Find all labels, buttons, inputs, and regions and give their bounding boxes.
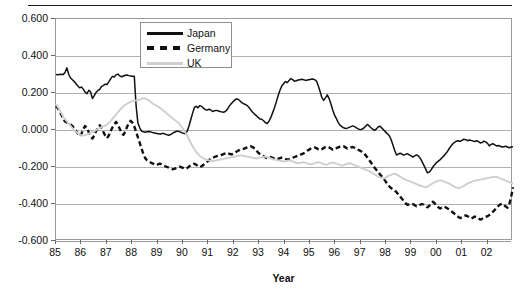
chart-figure: 0.6000.4000.2000.000-0.200-0.400-0.600 8… bbox=[0, 0, 520, 293]
legend-item-germany: Germany bbox=[141, 41, 233, 56]
x-axis-tick-label: 91 bbox=[195, 247, 219, 258]
legend-label: Germany bbox=[187, 42, 230, 54]
y-axis-tick-label: 0.200 bbox=[0, 87, 48, 97]
plot-area bbox=[55, 18, 512, 240]
y-axis-tick-label: -0.400 bbox=[0, 198, 48, 208]
series-line-japan bbox=[56, 68, 513, 173]
series-line-germany bbox=[56, 106, 513, 220]
x-axis-tick-label: 92 bbox=[221, 247, 245, 258]
legend-swatch-solid-line-icon bbox=[147, 32, 183, 35]
top-divider-rule bbox=[28, 5, 512, 6]
x-axis-tick-label: 94 bbox=[272, 247, 296, 258]
x-axis-tick-label: 85 bbox=[43, 247, 67, 258]
gridline bbox=[56, 241, 511, 242]
x-axis-title: Year bbox=[224, 272, 344, 284]
x-axis-tick-label: 01 bbox=[449, 247, 473, 258]
x-axis-tick-label: 98 bbox=[373, 247, 397, 258]
legend-label: Japan bbox=[187, 27, 216, 39]
y-axis-tick-label: 0.600 bbox=[0, 13, 48, 23]
x-axis-tick-label: 95 bbox=[297, 247, 321, 258]
x-axis-tick-label: 02 bbox=[475, 247, 499, 258]
series-line-uk bbox=[56, 98, 513, 188]
x-axis-tick-label: 00 bbox=[424, 247, 448, 258]
legend-label: UK bbox=[187, 57, 202, 69]
x-axis-tick-label: 86 bbox=[68, 247, 92, 258]
series-lines-group bbox=[56, 19, 513, 241]
y-axis-tick-label: -0.600 bbox=[0, 235, 48, 245]
legend-item-uk: UK bbox=[141, 56, 233, 71]
y-axis-tick-label: -0.200 bbox=[0, 161, 48, 171]
x-axis-tick-label: 87 bbox=[94, 247, 118, 258]
y-axis-tick-mark bbox=[51, 240, 55, 241]
legend-swatch-light-line-icon bbox=[147, 62, 183, 65]
x-axis-tick-label: 88 bbox=[119, 247, 143, 258]
y-axis-tick-label: 0.400 bbox=[0, 50, 48, 60]
x-axis-tick-label: 96 bbox=[322, 247, 346, 258]
x-axis-tick-label: 93 bbox=[246, 247, 270, 258]
legend-swatch-dashed-line-icon bbox=[147, 46, 183, 50]
y-axis-tick-label: 0.000 bbox=[0, 124, 48, 134]
x-axis-tick-label: 99 bbox=[398, 247, 422, 258]
legend-item-japan: Japan bbox=[141, 26, 233, 41]
x-axis-tick-label: 89 bbox=[145, 247, 169, 258]
x-axis-tick-label: 90 bbox=[170, 247, 194, 258]
legend: Japan Germany UK bbox=[140, 22, 232, 68]
x-axis-tick-label: 97 bbox=[348, 247, 372, 258]
